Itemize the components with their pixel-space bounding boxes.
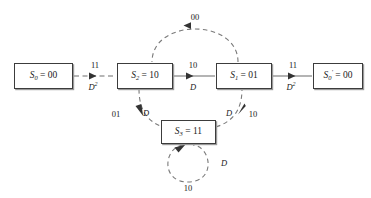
edge-label-s1-s0prime-output: 11 bbox=[289, 61, 297, 70]
edge-self-loop-s3 bbox=[168, 145, 208, 182]
edge-label-s3-s1-gain: D bbox=[226, 109, 232, 118]
state-node-s0-prime-label: S0′ = 00 bbox=[323, 71, 352, 81]
edge-arrowhead-s1-to-s0-prime bbox=[288, 73, 296, 80]
edge-label-s2-s1-gain: D bbox=[190, 83, 196, 92]
state-node-s1-label: S1 = 01 bbox=[230, 71, 258, 81]
edge-label-s3-s1-output: 10 bbox=[249, 110, 258, 119]
edge-arrowhead-s1-to-s2 bbox=[184, 22, 192, 29]
state-node-s2-label: S2 = 10 bbox=[131, 71, 159, 81]
edge-label-s2-s1-output: 10 bbox=[189, 61, 198, 70]
edge-label-s0-s2-gain: D2 bbox=[88, 83, 97, 92]
edge-arrowhead-s2-to-s1 bbox=[186, 73, 194, 80]
state-node-s0[interactable]: S0 = 00 bbox=[14, 63, 73, 89]
edge-arrowhead-s0-to-s2 bbox=[89, 73, 97, 80]
edge-label-self-loop-output: 10 bbox=[184, 184, 193, 193]
edge-label-s0-s2-output: 11 bbox=[91, 61, 99, 70]
state-node-s3-label: S3 = 11 bbox=[175, 127, 202, 137]
state-node-s0-prime[interactable]: S0′ = 00 bbox=[313, 63, 363, 89]
edge-label-s2-s3-output: 01 bbox=[112, 110, 121, 119]
edge-arc-s1-to-s2 bbox=[152, 29, 238, 62]
edge-label-self-loop-gain: D bbox=[221, 159, 227, 168]
state-node-s1[interactable]: S1 = 01 bbox=[216, 63, 272, 89]
edge-label-s2-s3-gain: D bbox=[143, 109, 149, 118]
diagram-edges-layer bbox=[0, 0, 371, 198]
state-node-s0-label: S0 = 00 bbox=[30, 71, 58, 81]
state-diagram-canvas: S0 = 00 S2 = 10 S1 = 01 S0′ = 00 S3 = 11… bbox=[0, 0, 371, 198]
state-node-s3[interactable]: S3 = 11 bbox=[161, 120, 216, 144]
state-node-s2[interactable]: S2 = 10 bbox=[117, 63, 173, 89]
edge-label-top-arc-output: 00 bbox=[191, 13, 200, 22]
edge-label-s1-s0prime-gain: D2 bbox=[286, 83, 295, 92]
